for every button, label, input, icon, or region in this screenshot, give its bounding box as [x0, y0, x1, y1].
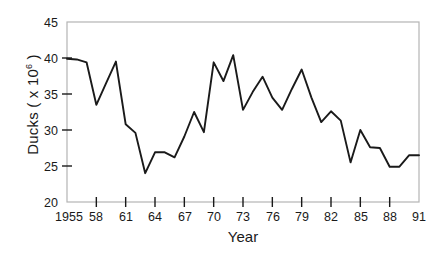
- duck-population-chart: Ducks ( x 106 ) Year 45 40 35 30 25 20 1…: [0, 0, 439, 255]
- plot-area: [0, 0, 439, 255]
- plot-frame: [67, 22, 419, 202]
- ducks-data-line: [67, 55, 419, 173]
